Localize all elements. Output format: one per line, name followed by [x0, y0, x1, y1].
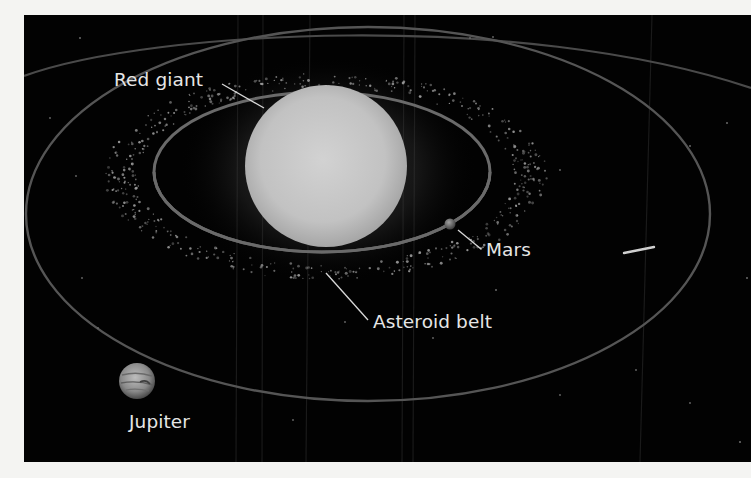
- label-jupiter: Jupiter: [129, 413, 190, 432]
- label-mars: Mars: [486, 241, 531, 260]
- comet-streak: [624, 247, 654, 253]
- jupiter-planet: [119, 363, 155, 399]
- red-giant-star: [245, 85, 407, 247]
- label-asteroid-belt: Asteroid belt: [373, 313, 492, 332]
- diagram-panel: Red giant Mars Asteroid belt Jupiter: [24, 15, 751, 462]
- mars-planet: [445, 219, 456, 230]
- label-red-giant: Red giant: [114, 71, 203, 90]
